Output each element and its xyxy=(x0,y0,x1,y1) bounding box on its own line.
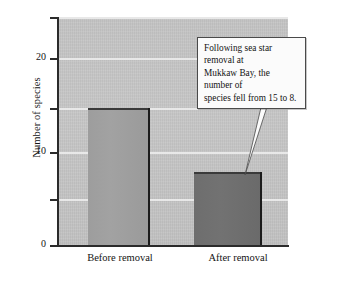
y-tick-0 xyxy=(50,245,58,247)
x-tick-label-after-removal: After removal xyxy=(178,252,298,263)
callout-line-3: species fell from 15 to 8. xyxy=(204,92,300,104)
y-tick-label-0: 0 xyxy=(14,238,46,249)
y-tick-label-10: 10 xyxy=(14,145,46,156)
x-tick-label-before-removal: Before removal xyxy=(60,252,180,263)
bar-after-removal-face xyxy=(194,172,262,245)
y-tick-10 xyxy=(50,152,58,154)
bar-before-removal-top-edge xyxy=(88,108,150,110)
callout-annotation: Following sea star removal at Mukkaw Bay… xyxy=(197,37,306,109)
x-axis-line xyxy=(57,245,289,247)
bar-chart-figure: Number of species 20 10 0 Before xyxy=(0,0,347,281)
y-tick-20 xyxy=(50,58,58,60)
callout-line-1: Following sea star removal at xyxy=(204,42,300,67)
bar-before-removal-right-edge xyxy=(148,108,151,245)
y-tick-5 xyxy=(50,199,58,201)
y-tick-25 xyxy=(50,17,58,19)
y-tick-label-20: 20 xyxy=(14,51,46,62)
gridline-25 xyxy=(59,17,288,19)
y-axis-line xyxy=(57,17,59,246)
y-tick-15 xyxy=(50,108,58,110)
bar-after-removal-right-edge xyxy=(260,172,263,245)
bar-before-removal-face xyxy=(88,108,150,245)
bar-before-removal xyxy=(88,108,150,245)
bar-after-removal-top-edge xyxy=(194,172,262,174)
bar-after-removal xyxy=(194,172,262,245)
callout-line-2: Mukkaw Bay, the number of xyxy=(204,67,300,92)
